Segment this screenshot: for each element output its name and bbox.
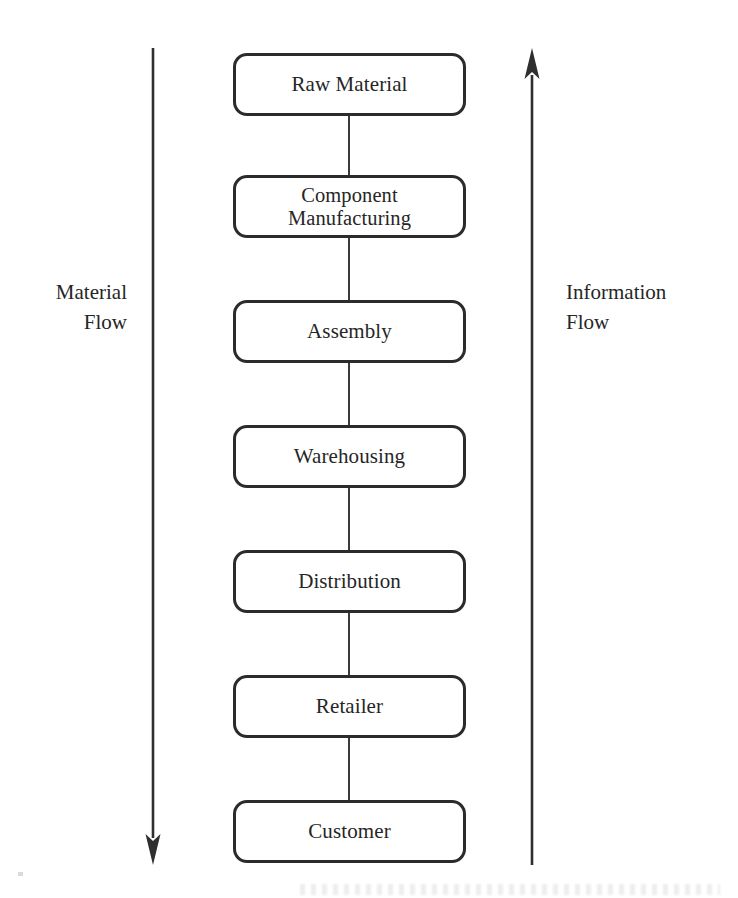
node-customer-label: Customer [302, 820, 396, 843]
information-flow-arrow-up-icon [523, 48, 541, 865]
information-flow-label: Information Flow [566, 277, 726, 338]
material-flow-arrow-down-icon [144, 48, 162, 865]
node-component-manufacturing-label: Component Manufacturing [282, 184, 417, 230]
supply-chain-diagram: Raw Material Component Manufacturing Ass… [0, 0, 738, 898]
node-retailer[interactable]: Retailer [233, 675, 466, 738]
node-assembly-label: Assembly [301, 320, 398, 343]
node-warehousing-label: Warehousing [288, 445, 411, 468]
node-warehousing[interactable]: Warehousing [233, 425, 466, 488]
connector-retailer-to-customer [348, 738, 350, 800]
node-raw-material[interactable]: Raw Material [233, 53, 466, 116]
connector-distribution-to-retailer [348, 613, 350, 675]
scan-artifact [300, 884, 720, 895]
connector-component-manufacturing-to-assembly [348, 238, 350, 300]
connector-assembly-to-warehousing [348, 363, 350, 425]
scan-speck [18, 872, 23, 876]
node-customer[interactable]: Customer [233, 800, 466, 863]
node-distribution[interactable]: Distribution [233, 550, 466, 613]
material-flow-label: Material Flow [0, 277, 127, 338]
node-retailer-label: Retailer [310, 695, 389, 718]
node-raw-material-label: Raw Material [285, 73, 413, 96]
connector-warehousing-to-distribution [348, 488, 350, 550]
node-distribution-label: Distribution [292, 570, 407, 593]
connector-raw-material-to-component-manufacturing [348, 116, 350, 175]
node-component-manufacturing[interactable]: Component Manufacturing [233, 175, 466, 238]
node-assembly[interactable]: Assembly [233, 300, 466, 363]
